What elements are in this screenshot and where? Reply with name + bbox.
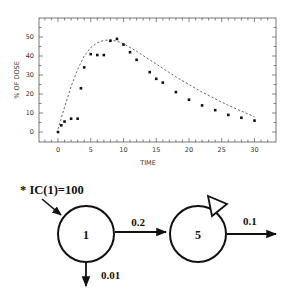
svg-text:5: 5	[89, 146, 93, 154]
model-fit-curve	[58, 40, 255, 129]
svg-text:20: 20	[185, 146, 193, 154]
elimination-rate-1: 0.01	[101, 269, 120, 281]
x-axis-title: TIME	[139, 159, 156, 167]
svg-text:40: 40	[26, 52, 34, 60]
data-point	[83, 66, 86, 69]
observed-data-points	[57, 38, 256, 134]
data-point	[214, 109, 217, 112]
x-axis-tick-labels: 051015202530	[56, 146, 259, 154]
data-point	[76, 117, 79, 120]
compartment-model-diagram: * IC(1)=100 1 0.2 0.01 5 0.1	[0, 172, 292, 302]
y-axis-title: % OF DOSE	[13, 61, 21, 99]
svg-text:10: 10	[26, 109, 34, 117]
data-point	[122, 43, 125, 46]
flow-rate-1-to-5: 0.2	[131, 216, 145, 228]
data-point	[63, 120, 66, 123]
data-point	[70, 117, 73, 120]
svg-text:0: 0	[56, 146, 60, 154]
data-point	[175, 91, 178, 94]
y-axis-tick-labels: 01020304050	[26, 33, 34, 136]
svg-text:25: 25	[218, 146, 226, 154]
data-point	[103, 54, 106, 57]
svg-text:20: 20	[26, 90, 34, 98]
data-point	[227, 114, 230, 117]
data-point	[96, 54, 99, 57]
dose-time-chart: 051015202530 01020304050 TIME % OF DOSE	[0, 0, 292, 172]
compartment-5-label: 5	[195, 228, 201, 242]
compartment-1-label: 1	[83, 228, 89, 242]
data-point	[253, 119, 256, 122]
data-point	[109, 40, 112, 43]
svg-text:15: 15	[152, 146, 160, 154]
svg-text:30: 30	[26, 71, 34, 79]
data-point	[60, 124, 63, 127]
input-arrow	[42, 199, 61, 215]
data-point	[135, 59, 138, 62]
initial-condition-label: * IC(1)=100	[20, 183, 84, 197]
elimination-rate-5: 0.1	[243, 215, 257, 227]
svg-text:30: 30	[250, 146, 258, 154]
svg-text:0: 0	[30, 128, 34, 136]
data-point	[162, 81, 165, 84]
svg-text:10: 10	[119, 146, 127, 154]
data-point	[80, 87, 83, 90]
data-point	[89, 53, 92, 56]
data-point	[188, 98, 191, 101]
data-point	[129, 51, 132, 54]
data-point	[116, 38, 119, 41]
data-point	[148, 71, 151, 74]
data-point	[57, 131, 60, 134]
svg-text:50: 50	[26, 33, 34, 41]
data-point	[240, 116, 243, 119]
data-point	[201, 104, 204, 107]
data-point	[155, 78, 158, 81]
